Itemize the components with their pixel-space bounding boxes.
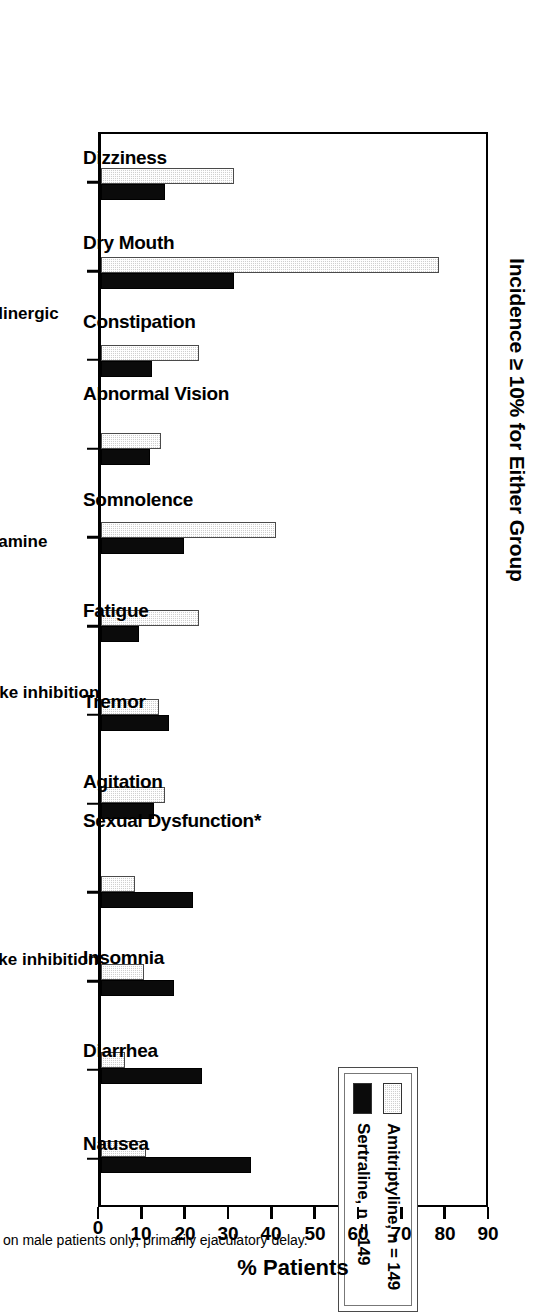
page-title: Incidence ≥ 10% for Either Group bbox=[505, 258, 529, 778]
bar-sertraline bbox=[101, 715, 169, 731]
category-label: Agitation bbox=[45, 759, 85, 848]
value-tick bbox=[400, 1207, 403, 1219]
category-label: Constipation bbox=[45, 316, 85, 405]
bars-layer bbox=[101, 134, 486, 1205]
category-tick bbox=[87, 1114, 98, 1203]
category-label-text: Constipation bbox=[83, 311, 196, 333]
bar-amitriptyline bbox=[101, 345, 199, 361]
mechanism-label: Anticholinergic bbox=[0, 304, 59, 324]
value-tick-label: 70 bbox=[391, 1223, 412, 1245]
bar-group bbox=[101, 847, 486, 935]
value-axis-title: % Patients bbox=[98, 1248, 488, 1288]
category-label: Diarrhea bbox=[45, 1026, 85, 1115]
category-label-text: Diarrhea bbox=[83, 1040, 158, 1062]
value-tick bbox=[443, 1207, 446, 1219]
category-label: Somnolence bbox=[45, 493, 85, 582]
mechanism-label: Antihistamine bbox=[0, 532, 47, 552]
value-tick bbox=[487, 1207, 490, 1219]
category-tick bbox=[87, 848, 98, 937]
bar-amitriptyline bbox=[101, 433, 161, 449]
category-label-text: Fatigue bbox=[83, 600, 148, 622]
category-label-text: Nausea bbox=[83, 1133, 149, 1155]
bar-amitriptyline bbox=[101, 522, 276, 538]
bar-group bbox=[101, 1113, 486, 1201]
category-label: Fatigue bbox=[45, 582, 85, 671]
category-labels: DizzinessDry MouthConstipationAbnormal V… bbox=[45, 132, 85, 1207]
value-tick-label: 60 bbox=[347, 1223, 368, 1245]
category-label: Dry Mouth bbox=[45, 227, 85, 316]
value-axis: 0102030405060708090 bbox=[98, 1207, 488, 1209]
bar-sertraline bbox=[101, 980, 174, 996]
bar-sertraline bbox=[101, 538, 184, 554]
value-tick bbox=[270, 1207, 273, 1219]
bar-group bbox=[101, 1024, 486, 1112]
bar-amitriptyline bbox=[101, 876, 135, 892]
value-axis-title-text: % Patients bbox=[237, 1255, 348, 1281]
category-label: Abnormal Vision bbox=[45, 404, 85, 493]
bar-sertraline bbox=[101, 1068, 202, 1084]
category-label-text: Dry Mouth bbox=[83, 233, 174, 255]
bar-group bbox=[101, 405, 486, 493]
bar-sertraline bbox=[101, 1157, 251, 1173]
bar-group bbox=[101, 671, 486, 759]
value-tick-label: 90 bbox=[477, 1223, 498, 1245]
category-label: Nausea bbox=[45, 1114, 85, 1203]
bar-sertraline bbox=[101, 184, 165, 200]
value-tick bbox=[227, 1207, 230, 1219]
bar-group bbox=[101, 582, 486, 670]
category-label-text: Abnormal Vision bbox=[83, 383, 229, 405]
value-tick-label: 80 bbox=[434, 1223, 455, 1245]
category-label-text: Agitation bbox=[83, 771, 163, 793]
category-label: Sexual Dysfunction* bbox=[45, 848, 85, 937]
category-tick bbox=[87, 404, 98, 493]
bar-amitriptyline bbox=[101, 168, 234, 184]
value-tick bbox=[183, 1207, 186, 1219]
footnote: * Based on male patients only; primarily… bbox=[0, 1232, 308, 1248]
category-label: Dizziness bbox=[45, 138, 85, 227]
category-label-text: Dizziness bbox=[83, 147, 167, 169]
mechanism-label: SE uptake inhibition bbox=[0, 950, 98, 970]
value-tick bbox=[357, 1207, 360, 1219]
legend-swatch-sertraline bbox=[354, 1083, 373, 1114]
bar-amitriptyline bbox=[101, 257, 439, 273]
value-tick bbox=[313, 1207, 316, 1219]
value-tick bbox=[140, 1207, 143, 1219]
bar-sertraline bbox=[101, 273, 234, 289]
category-label-text: Sexual Dysfunction* bbox=[83, 810, 261, 832]
mechanism-label: NE uptake inhibition bbox=[0, 683, 99, 703]
category-label-text: Somnolence bbox=[83, 489, 193, 511]
bar-sertraline bbox=[101, 892, 193, 908]
bar-sertraline bbox=[101, 449, 150, 465]
category-tick bbox=[87, 582, 98, 671]
bar-sertraline bbox=[101, 361, 152, 377]
legend-swatch-amitriptyline bbox=[384, 1083, 403, 1114]
bar-sertraline bbox=[101, 626, 140, 642]
